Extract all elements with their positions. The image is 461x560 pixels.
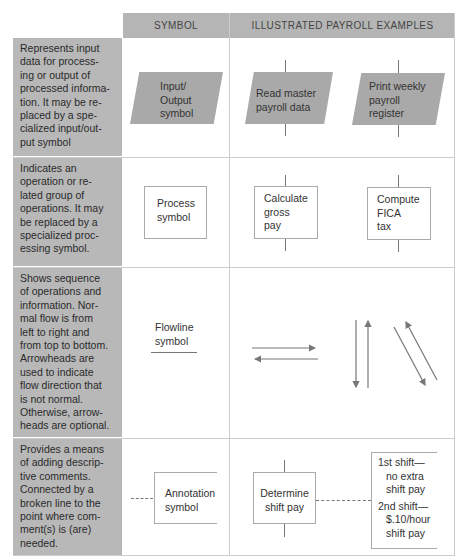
annotation-dashed-line: [131, 498, 153, 499]
annotation-dashed-connector: [316, 500, 371, 501]
description-annotation: Provides a meansof adding descrip-tive c…: [13, 439, 122, 555]
flowline-stub: [284, 524, 285, 537]
shift-pay-annotation-text: 1st shift— no extra shift pay 2nd shift—…: [378, 456, 430, 540]
determine-shift-pay-box: Determineshift pay: [253, 472, 316, 524]
annotation-symbol-label: Annotationsymbol: [165, 487, 215, 514]
